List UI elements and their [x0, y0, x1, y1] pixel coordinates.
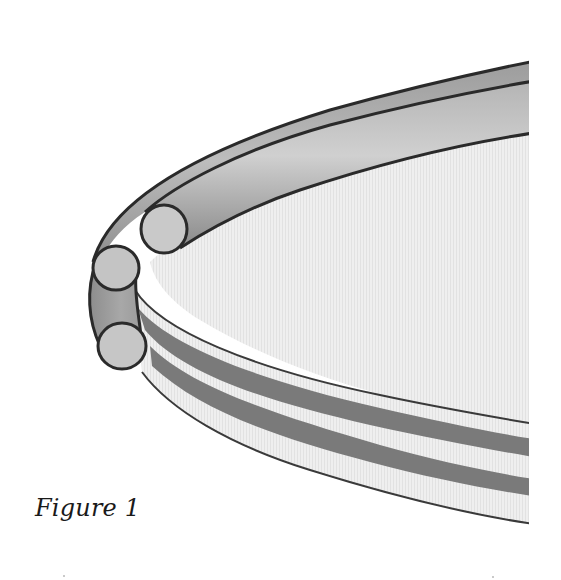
bottom-tube-end — [98, 323, 146, 369]
figure-caption: Figure 1 — [35, 494, 140, 522]
upper-tube-end — [141, 205, 187, 253]
lower-tube-end — [93, 246, 139, 290]
print-speck — [492, 576, 494, 578]
print-speck — [63, 575, 65, 577]
